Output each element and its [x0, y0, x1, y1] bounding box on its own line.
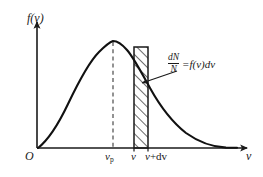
- formula-right-hand-side: =f(v)dv: [182, 58, 215, 70]
- x-tick-vdv-tail: +dv: [150, 150, 167, 162]
- origin-label: O: [25, 150, 34, 162]
- fraction-numerator: dN: [166, 53, 181, 63]
- x-tick-label-v-plus-dv: v+dv: [145, 151, 167, 162]
- x-tick-label-vp: vp: [105, 151, 114, 163]
- x-tick-vp-subscript: p: [110, 155, 114, 164]
- fraction-dn-over-n: dN N: [166, 53, 181, 74]
- fraction-denominator: N: [168, 63, 178, 74]
- annotation-formula: dN N =f(v)dv: [166, 53, 215, 74]
- x-tick-label-v: v: [131, 151, 136, 162]
- maxwell-distribution-figure: f(v) O v vp v v+dv dN N =f(v)dv: [0, 0, 263, 177]
- x-axis-label: v: [246, 150, 251, 162]
- y-axis-label: f(v): [27, 12, 44, 24]
